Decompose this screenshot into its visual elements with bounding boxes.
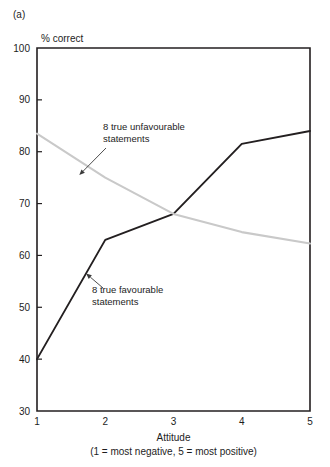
y-tick-label: 40	[19, 354, 31, 365]
y-axis-title: % correct	[41, 33, 83, 44]
annotation-text-line1: 8 true unfavourable	[103, 121, 185, 132]
y-tick-label: 90	[19, 94, 31, 105]
y-tick-label: 80	[19, 146, 31, 157]
plot-frame	[37, 48, 310, 411]
chart-figure: (a) 30405060708090100 12345 % correct At…	[0, 0, 330, 467]
y-axis-tick-labels: 30405060708090100	[13, 43, 30, 417]
x-axis-note: (1 = most negative, 5 = most positive)	[90, 446, 257, 457]
y-tick-label: 100	[13, 43, 30, 54]
y-tick-label: 50	[19, 302, 31, 313]
annotation-leader-line	[83, 148, 106, 171]
x-tick-label: 1	[34, 416, 40, 427]
y-tick-label: 60	[19, 250, 31, 261]
y-tick-label: 70	[19, 198, 31, 209]
x-tick-label: 5	[307, 416, 313, 427]
x-axis-tick-labels: 12345	[34, 416, 313, 427]
data-series-group	[37, 131, 310, 359]
x-tick-label: 4	[239, 416, 245, 427]
series-line-2	[37, 134, 310, 244]
annotation-group: 8 true unfavourablestatements8 true favo…	[79, 121, 185, 307]
annotation-text-line2: statements	[92, 296, 139, 307]
annotation-text-line1: 8 true favourable	[92, 284, 163, 295]
x-tick-label: 3	[171, 416, 177, 427]
annotation-text-line2: statements	[103, 133, 150, 144]
x-tick-label: 2	[102, 416, 108, 427]
line-chart: 30405060708090100 12345 % correct Attitu…	[0, 0, 330, 467]
x-axis-title: Attitude	[157, 432, 191, 443]
series-line-1	[37, 131, 310, 359]
y-tick-label: 30	[19, 406, 31, 417]
